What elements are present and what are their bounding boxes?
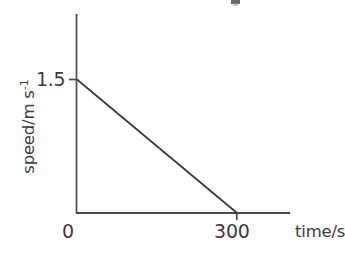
y-axis-title-superscript: -1 [18,79,31,90]
x-axis-title: time/s [295,224,345,241]
y-axis-title-text: speed/m s [19,90,38,174]
data-line-speed [77,80,237,214]
x-axis-tick-label-0: 0 [62,222,74,241]
y-axis-title: speed/m s-1 [19,52,38,202]
x-axis-tick-label-300: 300 [214,222,250,241]
y-axis-tick-label-1point5: 1.5 [36,70,65,89]
cropped-text-artifact-shadow [233,3,238,6]
